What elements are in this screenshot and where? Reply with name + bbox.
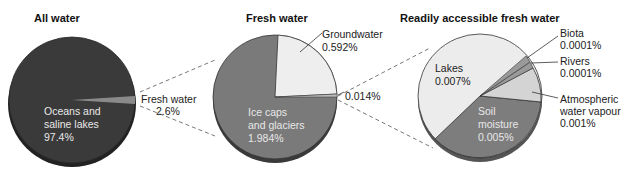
svg-text:and glaciers: and glaciers [248,119,305,131]
svg-text:2.6%: 2.6% [156,105,180,117]
pie-fresh-water: Fresh water Groundwater 0.592% 0.014% Ic… [213,12,383,163]
svg-text:Lakes: Lakes [435,62,463,74]
svg-text:0.007%: 0.007% [435,75,471,87]
svg-text:97.4%: 97.4% [44,131,74,143]
svg-text:0.014%: 0.014% [345,90,381,102]
svg-text:0.0001%: 0.0001% [560,39,601,51]
svg-text:1.984%: 1.984% [248,132,284,144]
svg-text:Groundwater: Groundwater [322,28,383,40]
pie1-title: All water [34,12,81,24]
svg-text:water vapour: water vapour [559,105,621,117]
pie2-title: Fresh water [246,12,308,24]
svg-text:0.592%: 0.592% [322,41,358,53]
water-distribution-chart: All water Oceans and saline lakes 97.4% … [0,0,632,177]
svg-text:Biota: Biota [560,27,584,39]
svg-text:saline lakes: saline lakes [44,118,99,130]
svg-text:Soil: Soil [478,105,496,117]
pie-accessible-water: Readily accessible fresh water Lakes 0.0… [400,12,621,162]
svg-text:Atmospheric: Atmospheric [560,93,618,105]
svg-text:Rivers: Rivers [560,55,590,67]
svg-text:Ice caps: Ice caps [248,106,287,118]
svg-text:moisture: moisture [478,118,518,130]
pie3-title: Readily accessible fresh water [400,12,560,24]
svg-text:Fresh water: Fresh water [141,93,197,105]
svg-text:0.0001%: 0.0001% [560,67,601,79]
svg-text:0.001%: 0.001% [560,117,596,129]
svg-text:0.005%: 0.005% [478,131,514,143]
svg-text:Oceans and: Oceans and [44,105,101,117]
pie-all-water: All water Oceans and saline lakes 97.4% … [8,12,197,167]
